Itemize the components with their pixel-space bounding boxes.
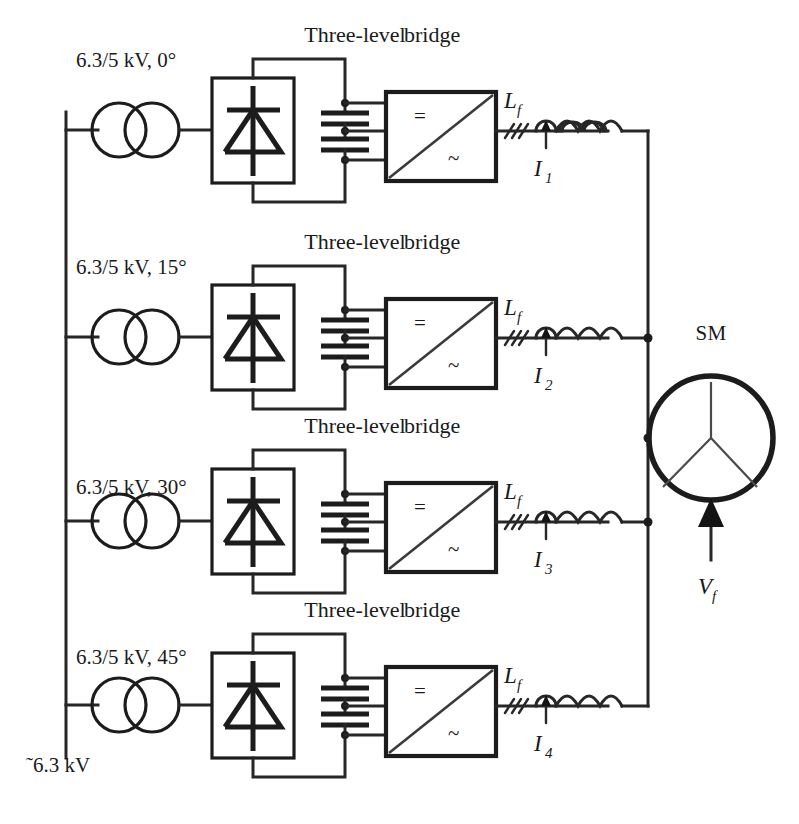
svg-text:I: I [533, 156, 543, 181]
inductor-label-1: L f [503, 88, 523, 118]
transformer-label-3: 6.3/5 kV, 30° [76, 475, 187, 499]
dc-capacitors-3 [321, 490, 386, 555]
three-level-bridge-1: = ~ [386, 92, 496, 181]
branch-3: = ~ 6.3/5 kV, 30° Three-level bridge L f [66, 413, 648, 593]
current-label-3: I 3 [533, 547, 553, 577]
bridge-dc-symbol-1: = [414, 104, 426, 128]
svg-text:f: f [517, 309, 523, 325]
svg-text:3: 3 [544, 561, 553, 577]
dc-capacitors-4 [321, 674, 386, 739]
field-voltage-label: V f [698, 574, 718, 604]
inductor-label-3: L f [503, 479, 523, 509]
schematic-canvas: = ~ 6.3/5 kV, 0° [0, 0, 799, 824]
branch-4: = ~ 6.3/5 kV, 45° Three-level bridge L f [66, 597, 648, 777]
svg-text:2: 2 [545, 377, 553, 393]
bridge-ac-symbol-1: ~ [448, 146, 459, 170]
three-level-bridge-2: = ~ [386, 299, 496, 388]
source-voltage-label: ˜6.3 kV [26, 753, 90, 777]
inductor-label-2: L f [503, 295, 523, 325]
transformer-3 [66, 494, 212, 548]
transformer-label-2: 6.3/5 kV, 15° [76, 255, 187, 279]
svg-text:f: f [517, 677, 523, 693]
bridge-dc-symbol-4: = [414, 679, 426, 703]
dc-capacitors-2 [321, 306, 386, 371]
rectifier-2 [212, 285, 294, 390]
three-level-bridge-3: = ~ [386, 483, 496, 572]
transformer-4 [66, 678, 212, 732]
current-label-1: I 1 [533, 156, 553, 186]
svg-text:f: f [517, 102, 523, 118]
ac-output-3 [496, 511, 648, 539]
rectifier-4 [212, 653, 294, 758]
svg-text:4: 4 [545, 745, 553, 761]
branch-2: = ~ 6.3/5 kV, 15° Three-level bridge L f [66, 229, 648, 409]
schematic-diagram: = ~ 6.3/5 kV, 0° [0, 0, 799, 824]
bridge-ac-symbol-2: ~ [448, 353, 459, 377]
rectifier-1 [212, 78, 294, 183]
svg-text:L: L [503, 295, 517, 320]
svg-text:I: I [533, 547, 543, 572]
ac-output-4 [496, 695, 648, 723]
three-level-bridge-4: = ~ [386, 667, 496, 756]
bridge-title-line2-1: bridge [404, 22, 460, 47]
bridge-title-line1-3: Three-level [304, 413, 405, 438]
current-label-4: I 4 [533, 731, 553, 761]
bridge-title-line2-2: bridge [404, 229, 460, 254]
svg-text:L: L [503, 88, 517, 113]
transformer-label-1: 6.3/5 kV, 0° [76, 48, 176, 72]
branch-1: = ~ 6.3/5 kV, 0° [66, 22, 648, 202]
inductor-label-4: L f [503, 663, 523, 693]
svg-text:f: f [517, 493, 523, 509]
ac-output-1 [496, 120, 648, 148]
transformer-1 [66, 103, 212, 157]
dc-capacitors-1 [321, 99, 386, 164]
svg-text:L: L [503, 479, 517, 504]
svg-text:L: L [503, 663, 517, 688]
rectifier-3 [212, 469, 294, 574]
machine-label: SM [695, 321, 726, 345]
bridge-title-line1-1: Three-level [304, 22, 405, 47]
ac-output-2 [496, 327, 648, 355]
svg-text:f: f [712, 588, 718, 604]
current-label-2: I 2 [533, 363, 553, 393]
svg-text:I: I [533, 363, 543, 388]
bridge-title-line2-4: bridge [404, 597, 460, 622]
bridge-title-line1-4: Three-level [304, 597, 405, 622]
synchronous-machine [649, 376, 773, 560]
bridge-dc-symbol-3: = [414, 495, 426, 519]
transformer-label-4: 6.3/5 kV, 45° [76, 645, 187, 669]
svg-text:I: I [533, 731, 543, 756]
bridge-ac-symbol-3: ~ [448, 537, 459, 561]
bridge-ac-symbol-4: ~ [448, 721, 459, 745]
bridge-dc-symbol-2: = [414, 311, 426, 335]
transformer-2 [66, 310, 212, 364]
bridge-title-line2-3: bridge [404, 413, 460, 438]
svg-text:1: 1 [545, 170, 553, 186]
bridge-title-line1-2: Three-level [304, 229, 405, 254]
